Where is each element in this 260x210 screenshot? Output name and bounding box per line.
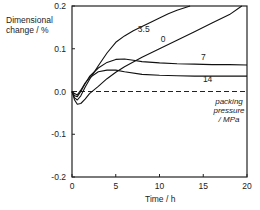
curve-label-3_5: 3.5	[138, 24, 150, 34]
axes: 051015200.20.10.0-0.1-0.2	[51, 1, 252, 191]
annotation-line1: packing	[214, 97, 243, 106]
annotation-line3: / MPa	[218, 115, 240, 124]
y-tick-label: -0.2	[51, 172, 66, 182]
x-tick-label: 0	[70, 181, 75, 191]
y-tick-label: 0.1	[54, 44, 66, 54]
curve-3_5-mpa	[72, 6, 190, 100]
x-tick-label: 10	[155, 181, 165, 191]
y-tick-label: 0.2	[54, 1, 66, 11]
y-tick-label: 0.0	[54, 87, 66, 97]
curve-7-mpa	[72, 59, 247, 97]
x-axis-title: Time / h	[145, 194, 176, 204]
dimensional-change-chart: 051015200.20.10.0-0.1-0.2 03.5714 Dimens…	[0, 0, 260, 210]
curve-label-14: 14	[203, 74, 213, 84]
y-tick-label: -0.1	[51, 129, 66, 139]
x-tick-label: 15	[199, 181, 209, 191]
y-axis-title-line1: Dimensional	[6, 15, 53, 25]
curve-label-0: 0	[161, 34, 166, 44]
data-curves	[72, 6, 247, 104]
y-axis-title-line2: change / %	[6, 25, 49, 35]
curve-label-7: 7	[201, 52, 206, 62]
x-tick-label: 20	[242, 181, 252, 191]
x-tick-label: 5	[113, 181, 118, 191]
curve-0-mpa	[72, 6, 242, 104]
annotation-line2: pressure	[212, 106, 245, 115]
